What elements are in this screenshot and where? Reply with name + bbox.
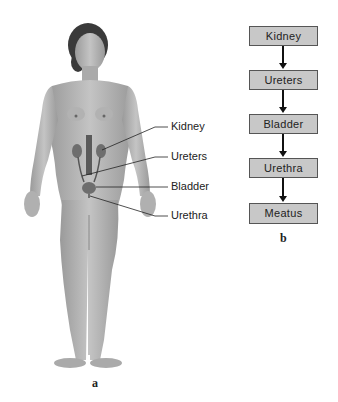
- flow-box-urethra: Urethra: [249, 158, 318, 178]
- flow-box-meatus: Meatus: [249, 203, 318, 224]
- arrow-icon: [282, 46, 284, 64]
- caption-a: a: [92, 376, 98, 391]
- flow-box-kidney: Kidney: [249, 26, 318, 46]
- arrowhead-icon: [279, 107, 287, 113]
- label-bladder: Bladder: [171, 180, 209, 192]
- arrow-icon: [282, 178, 284, 197]
- flow-box-ureters: Ureters: [249, 70, 318, 90]
- arrow-icon: [282, 90, 284, 108]
- caption-b: b: [280, 231, 287, 246]
- label-ureters: Ureters: [171, 150, 207, 162]
- label-kidney: Kidney: [171, 120, 205, 132]
- flow-box-bladder: Bladder: [249, 114, 318, 134]
- arrowhead-icon: [279, 151, 287, 157]
- label-urethra: Urethra: [171, 209, 208, 221]
- arrowhead-icon: [279, 196, 287, 202]
- arrowhead-icon: [279, 63, 287, 69]
- arrow-icon: [282, 134, 284, 152]
- human-figure-illustration: [0, 0, 230, 402]
